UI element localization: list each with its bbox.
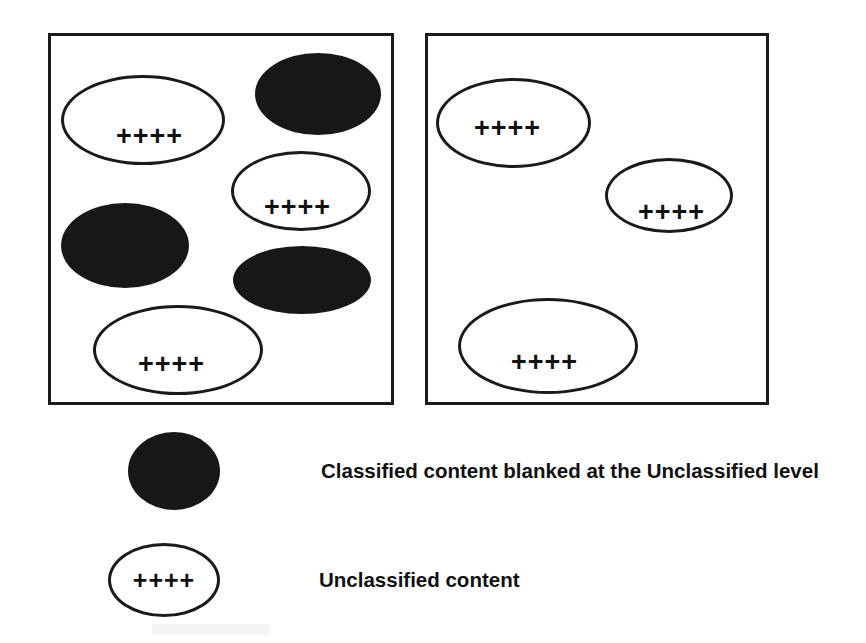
content-ellipse-unclassified: ++++ bbox=[231, 151, 371, 231]
ellipse-plus-label: ++++ bbox=[638, 199, 705, 226]
ellipse-plus-label: ++++ bbox=[474, 115, 541, 142]
legend-item-classified: Classified content blanked at the Unclas… bbox=[128, 432, 819, 510]
right-panel: ++++ ++++ ++++ bbox=[425, 33, 769, 405]
ellipse-plus-label: ++++ bbox=[264, 194, 331, 221]
legend-label-unclassified: Unclassified content bbox=[319, 568, 520, 592]
legend-swatch-plus-label: ++++ bbox=[133, 568, 195, 593]
legend-swatch-blanked-ellipse bbox=[128, 432, 220, 510]
content-ellipse-unclassified: ++++ bbox=[605, 158, 733, 233]
ellipse-plus-label: ++++ bbox=[511, 349, 578, 376]
scan-artifact bbox=[152, 624, 270, 635]
ellipse-plus-label: ++++ bbox=[116, 123, 183, 150]
left-panel: ++++ ++++ ++++ bbox=[48, 33, 394, 405]
legend-label-classified: Classified content blanked at the Unclas… bbox=[321, 459, 819, 483]
content-ellipse-unclassified: ++++ bbox=[436, 78, 591, 168]
ellipse-plus-label: ++++ bbox=[138, 351, 205, 378]
legend-item-unclassified: ++++ Unclassified content bbox=[108, 543, 520, 617]
content-ellipse-blanked bbox=[255, 53, 381, 135]
legend-swatch-open-ellipse: ++++ bbox=[108, 543, 220, 617]
content-ellipse-unclassified: ++++ bbox=[458, 298, 638, 394]
content-ellipse-unclassified: ++++ bbox=[61, 75, 225, 165]
content-ellipse-blanked bbox=[233, 246, 371, 314]
content-ellipse-blanked bbox=[61, 203, 189, 288]
content-ellipse-unclassified: ++++ bbox=[93, 305, 263, 395]
classification-diagram-figure: ++++ ++++ ++++ ++++ ++++ ++++ Classified… bbox=[0, 0, 866, 643]
